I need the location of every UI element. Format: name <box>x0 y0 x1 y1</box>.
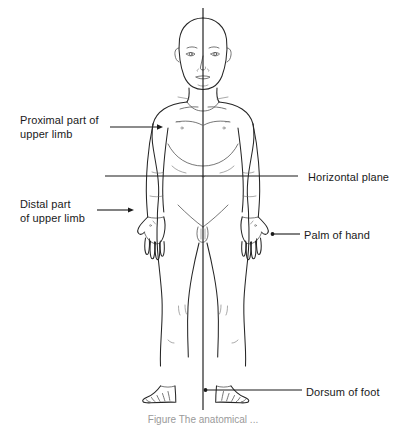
label-palm-of-hand: Palm of hand <box>304 228 402 242</box>
palm-leader-dot <box>271 232 275 236</box>
anatomical-figure: Proximal part of upper limb Distal part … <box>0 0 406 428</box>
label-horizontal-plane: Horizontal plane <box>308 170 404 184</box>
leader-lines-group <box>97 124 302 392</box>
plane-lines-group <box>105 8 298 410</box>
label-dorsum-of-foot: Dorsum of foot <box>306 385 404 399</box>
distal-leader-arrow <box>128 207 134 212</box>
label-distal-part-of-upper-limb: Distal part of upper limb <box>20 197 128 225</box>
figure-caption: Figure The anatomical ... <box>0 414 406 425</box>
dorsum-leader-dot <box>204 388 208 392</box>
feet-group <box>143 386 249 403</box>
label-proximal-part-of-upper-limb: Proximal part of upper limb <box>20 113 128 141</box>
proximal-leader-arrow <box>157 124 163 129</box>
